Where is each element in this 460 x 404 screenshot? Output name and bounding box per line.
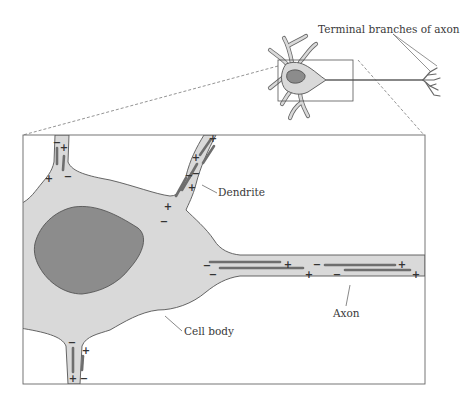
axon-leader [346, 285, 350, 306]
label-dendrite: Dendrite [218, 187, 265, 198]
projection-line-right [358, 60, 424, 135]
cell-body-leader [165, 316, 182, 331]
sign-plus: + [60, 143, 68, 153]
magnified-view [20, 135, 425, 384]
sign-minus: − [333, 270, 341, 280]
sign-minus: − [313, 260, 321, 270]
sign-plus: + [188, 183, 196, 193]
overview-terminal-branches [423, 68, 440, 96]
sign-plus: + [164, 202, 172, 212]
sign-minus: − [209, 270, 217, 280]
dendrite-leader [202, 185, 217, 193]
sign-plus: + [45, 174, 53, 184]
sign-plus: + [192, 153, 200, 163]
sign-minus: − [160, 217, 168, 227]
projection-line-left [23, 66, 278, 135]
sign-minus: − [192, 169, 200, 179]
sign-plus: + [398, 260, 406, 270]
label-cell-body: Cell body [184, 326, 234, 337]
sign-plus: + [284, 260, 292, 270]
sign-plus: + [412, 270, 420, 280]
sign-minus: − [68, 338, 76, 348]
sign-plus: + [69, 374, 77, 384]
label-terminal-branches: Terminal branches of axon [318, 24, 460, 35]
sign-plus: + [305, 270, 313, 280]
sign-minus: − [80, 374, 88, 384]
sign-minus: − [64, 172, 72, 182]
sign-plus: + [209, 134, 217, 144]
overview-neuron [270, 34, 440, 118]
sign-plus: + [82, 346, 90, 356]
label-axon: Axon [333, 308, 360, 319]
overview-nucleus [287, 70, 305, 83]
